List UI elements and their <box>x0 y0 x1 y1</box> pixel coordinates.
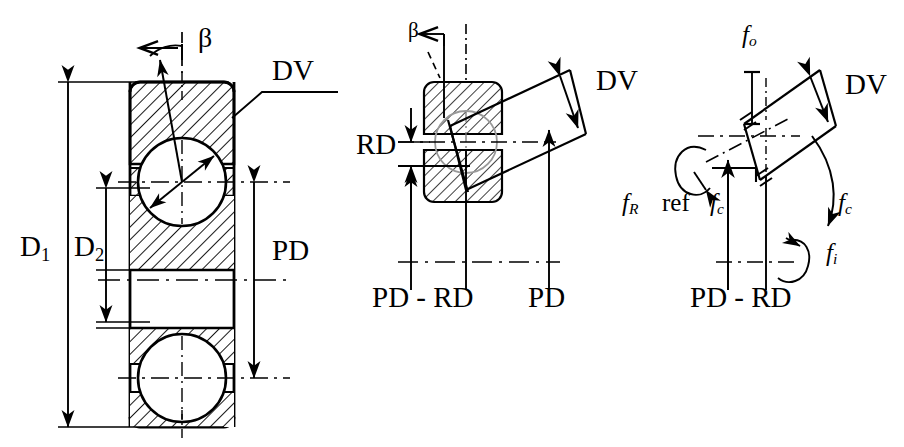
ref-linkage-right <box>712 168 756 182</box>
label-d1-base: D <box>20 230 41 262</box>
bearing-diagram-svg <box>0 0 904 447</box>
label-f-i: fi <box>826 240 837 267</box>
label-beta-mid: β <box>408 20 419 41</box>
label-d1: D1 <box>20 232 50 265</box>
label-f-c-right-sub: c <box>845 200 852 217</box>
label-f-o-sub: o <box>749 32 757 49</box>
label-f-c-right: fc <box>838 190 852 217</box>
label-f-c-left-sub: c <box>717 200 724 217</box>
label-rd-mid: RD <box>356 130 396 159</box>
rotation-loop-fi <box>778 238 809 282</box>
label-f-c-left: fc <box>710 190 724 217</box>
label-f-i-sub: i <box>833 250 837 267</box>
label-d2: D2 <box>74 232 104 265</box>
dv-dimension-right <box>810 76 828 122</box>
label-dv-right: DV <box>845 70 887 99</box>
label-dv-mid: DV <box>596 66 638 95</box>
label-pd-left: PD <box>272 236 309 265</box>
label-pd-minus-rd-mid: PD - RD <box>372 283 474 312</box>
dv-dimension-mid <box>560 76 578 128</box>
label-f-o-base: f <box>742 21 749 48</box>
rotation-loop-fR <box>675 147 710 195</box>
label-d2-base: D <box>74 230 95 262</box>
label-f-R-base: f <box>622 189 629 216</box>
label-d2-sub: 2 <box>95 244 104 265</box>
arrow-fc-curved-right <box>812 136 834 226</box>
label-f-c-left-base: f <box>710 189 717 216</box>
label-f-o: fo <box>742 22 757 49</box>
label-beta-left: β <box>198 24 212 52</box>
label-f-R: fR <box>622 190 638 217</box>
label-f-c-right-base: f <box>838 189 845 216</box>
label-f-R-sub: R <box>629 200 638 217</box>
label-ref: ref <box>662 190 690 215</box>
dv-leader-left <box>232 92 338 118</box>
label-pd-mid: PD <box>528 283 565 312</box>
label-pd-minus-rd-right: PD - RD <box>690 283 792 312</box>
label-dv-left: DV <box>272 56 314 85</box>
label-f-i-base: f <box>826 239 833 266</box>
figure-canvas: β DV D1 D2 PD β DV RD PD - RD PD fo DV f… <box>0 0 904 447</box>
label-d1-sub: 1 <box>41 244 50 265</box>
